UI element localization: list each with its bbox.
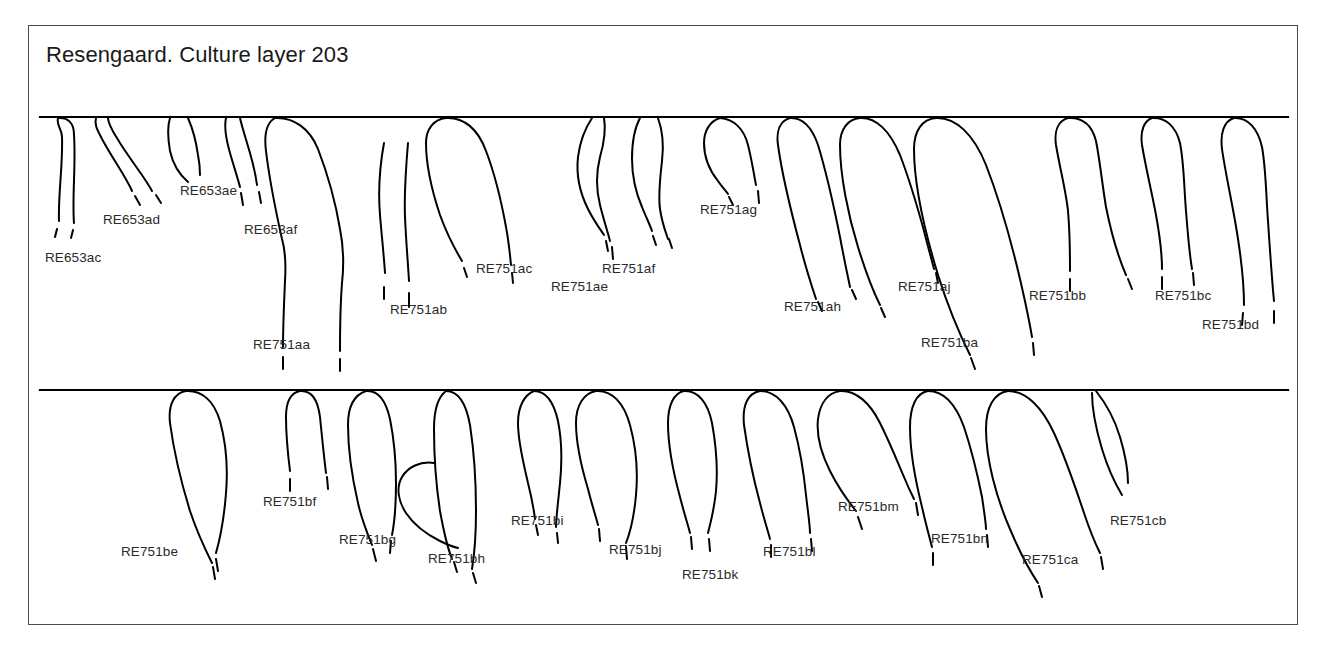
profile-re751be <box>170 391 227 579</box>
profile-re751bf <box>286 391 328 491</box>
profile-re751cb <box>1092 391 1128 495</box>
profile-label-re751bn: RE751bn <box>931 531 988 546</box>
profile-re751af <box>632 118 672 248</box>
profile-label-re751ag: RE751ag <box>700 202 757 217</box>
profile-label-re653af: RE653af <box>244 222 297 237</box>
profile-label-re751bb: RE751bb <box>1029 288 1086 303</box>
profile-label-re751bm: RE751bm <box>838 499 899 514</box>
profile-re751bc <box>1141 118 1194 289</box>
profile-label-re751bh: RE751bh <box>428 551 485 566</box>
profile-label-re751bd: RE751bd <box>1202 317 1259 332</box>
profile-drawing <box>28 25 1298 625</box>
profile-group <box>55 118 1274 597</box>
profile-label-re751be: RE751be <box>121 544 178 559</box>
profile-re751bl <box>744 391 812 557</box>
profile-re751ba <box>914 118 1034 369</box>
profile-label-re751ah: RE751ah <box>784 299 841 314</box>
profile-label-re751cb: RE751cb <box>1110 513 1166 528</box>
profile-label-re751aj: RE751aj <box>898 279 951 294</box>
profile-re751bj <box>576 391 637 559</box>
profile-re751ah <box>778 118 857 311</box>
profile-label-re751ca: RE751ca <box>1022 552 1078 567</box>
profile-re751ab <box>379 143 409 307</box>
profile-re653ac <box>55 118 75 238</box>
profile-label-re751bi: RE751bi <box>511 513 564 528</box>
profile-label-re751ae: RE751ae <box>551 279 608 294</box>
profile-label-re751ba: RE751ba <box>921 335 978 350</box>
profile-re653ad <box>95 118 161 205</box>
profile-label-re751aa: RE751aa <box>253 337 310 352</box>
profile-label-re653ad: RE653ad <box>103 212 160 227</box>
profile-re751ae <box>577 118 613 259</box>
profile-label-re653ae: RE653ae <box>180 183 237 198</box>
profile-label-re751bf: RE751bf <box>263 494 316 509</box>
profile-label-re751bg: RE751bg <box>339 532 396 547</box>
profile-re751bk <box>668 391 717 551</box>
profile-label-re751ac: RE751ac <box>476 261 532 276</box>
profile-re751bb <box>1056 118 1133 291</box>
baseline-group <box>40 117 1288 390</box>
profile-label-re751bc: RE751bc <box>1155 288 1211 303</box>
profile-re751ac <box>426 118 513 283</box>
figure-page: Resengaard. Culture layer 203 <box>0 0 1324 651</box>
profile-label-re751ab: RE751ab <box>390 302 447 317</box>
profile-label-re653ac: RE653ac <box>45 250 101 265</box>
profile-re751ag <box>704 118 759 205</box>
profile-re751bd <box>1222 118 1275 325</box>
profile-re653ae <box>168 118 200 182</box>
profile-re751aa <box>265 118 343 371</box>
profile-label-re751bj: RE751bj <box>609 542 662 557</box>
profile-label-re751bk: RE751bk <box>682 567 738 582</box>
profile-label-re751bl: RE751bl <box>763 544 816 559</box>
profile-label-re751af: RE751af <box>602 261 655 276</box>
